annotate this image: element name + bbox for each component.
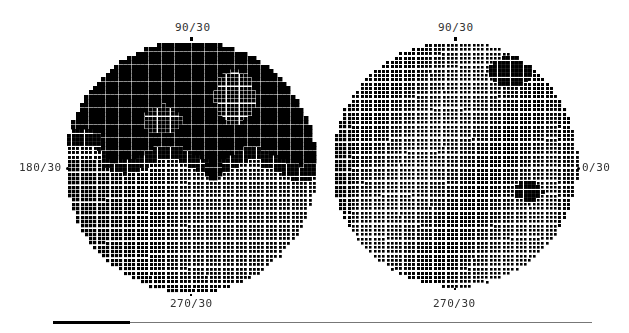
left-label-bottom: 270/30 [170, 298, 213, 310]
progress-bar [53, 322, 592, 323]
left-label-top: 90/30 [175, 22, 211, 34]
right-meridian-marker-0 [577, 167, 580, 170]
right-field-grayscale-plot [327, 36, 583, 292]
left-field-grayscale-plot [60, 36, 322, 298]
left-label-left: 180/30 [19, 162, 62, 174]
right-visual-field [327, 36, 583, 292]
right-label-top: 90/30 [438, 22, 474, 34]
right-label-right: 0/30 [582, 162, 611, 174]
left-meridian-marker-180 [66, 167, 69, 170]
left-visual-field [60, 36, 322, 298]
progress-bar-fill [53, 321, 130, 324]
right-label-bottom: 270/30 [433, 298, 476, 310]
